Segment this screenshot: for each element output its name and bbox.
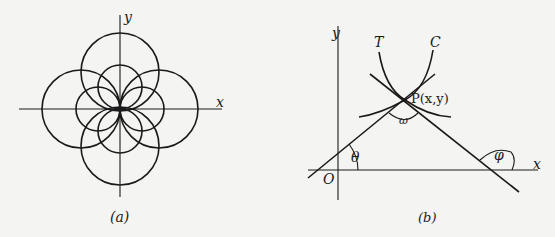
tangent-line-c: [308, 74, 435, 178]
panel-a: y x (a): [19, 9, 224, 225]
y-label-a: y: [123, 9, 133, 25]
label-phi: φ: [494, 147, 504, 163]
y-label-b: y: [331, 25, 341, 41]
label-t: T: [374, 34, 385, 50]
panel-b: T C P(x,y) ω θ φ y x O (b): [308, 25, 541, 225]
point-p: [403, 98, 407, 102]
origin-dot-a: [118, 107, 123, 112]
label-theta: θ: [351, 149, 360, 165]
label-c: C: [430, 34, 441, 50]
x-label-b: x: [533, 156, 541, 172]
caption-b: (b): [418, 210, 436, 225]
caption-a: (a): [110, 209, 129, 225]
label-point-p: P(x,y): [411, 91, 449, 106]
label-omega: ω: [399, 114, 408, 127]
x-label-a: x: [216, 94, 224, 110]
origin-label-b: O: [323, 171, 335, 187]
figure: y x (a) T C P(x,y) ω θ φ y x O (b): [0, 0, 555, 237]
